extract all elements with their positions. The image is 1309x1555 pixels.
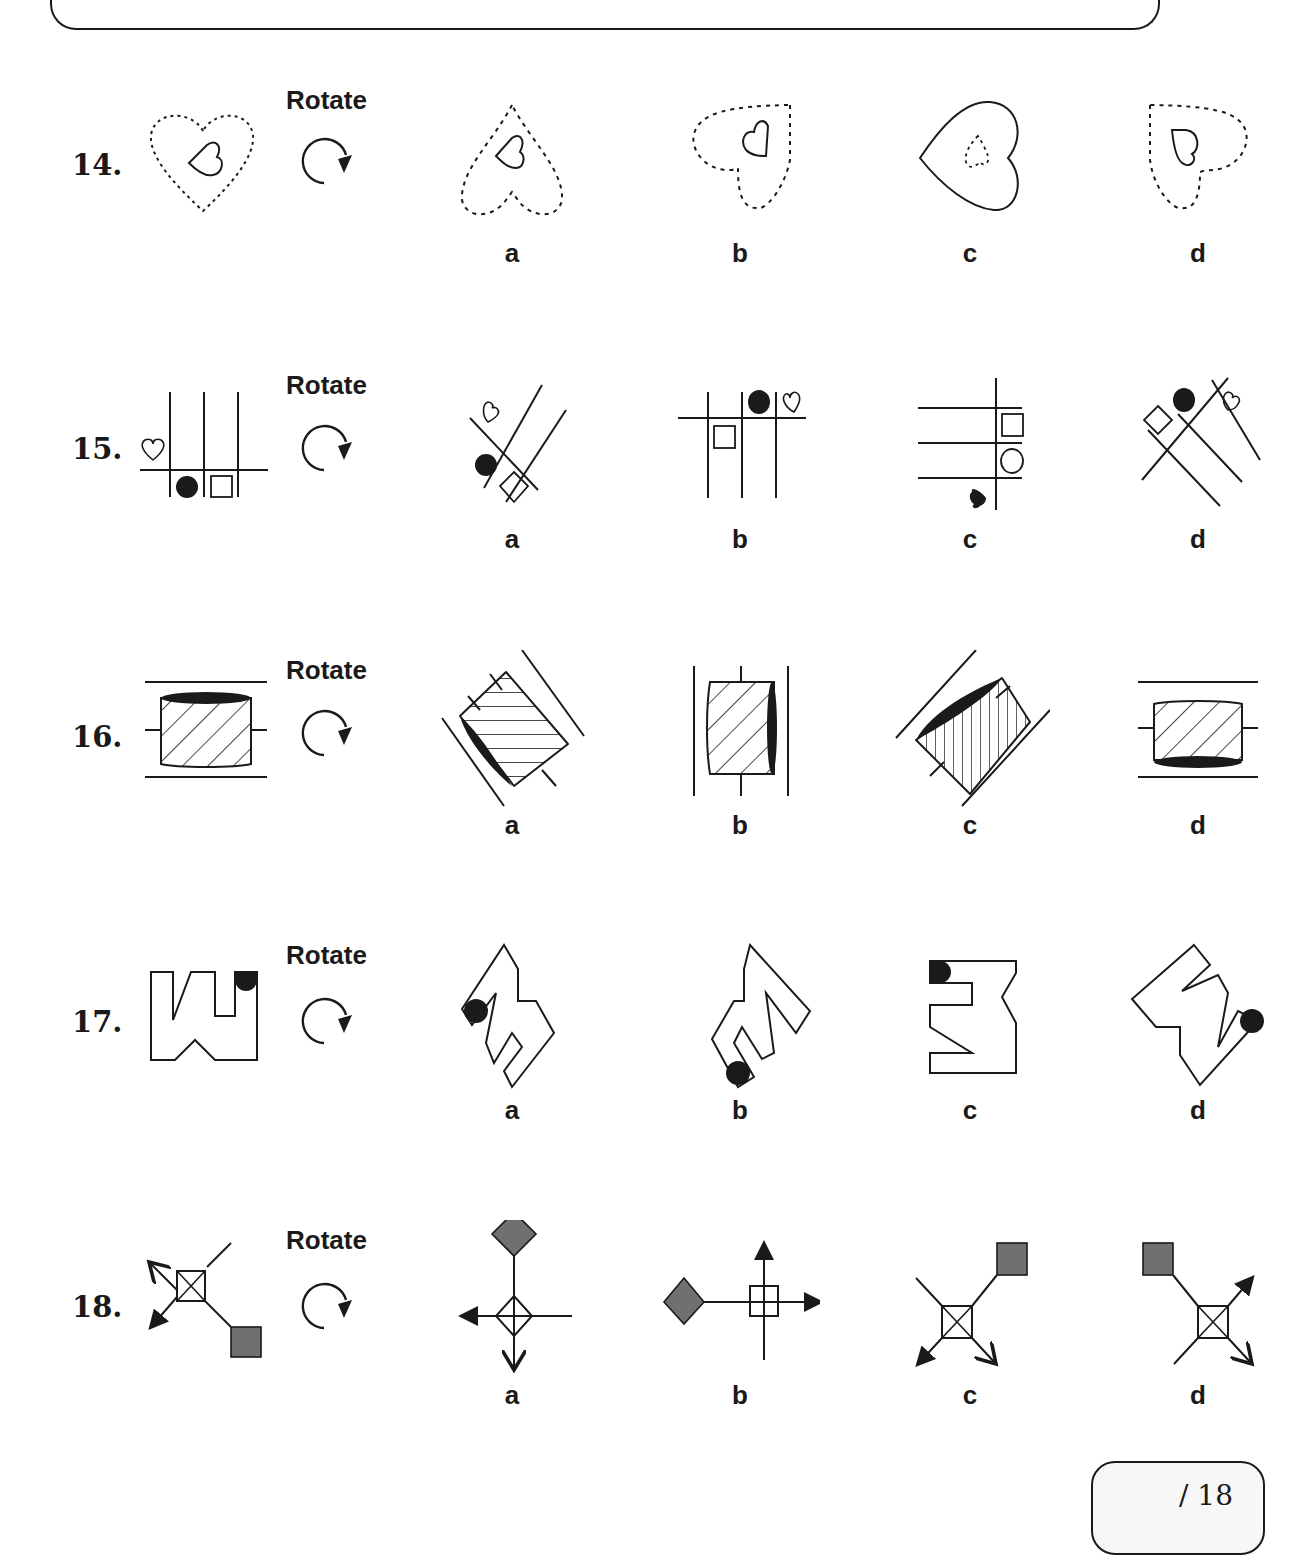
option-figure-icon xyxy=(660,650,820,810)
option-label: b xyxy=(660,1095,820,1126)
option-b[interactable]: b xyxy=(660,370,820,570)
option-label: a xyxy=(432,810,592,841)
option-figure-icon xyxy=(1118,1220,1278,1380)
option-a[interactable]: a xyxy=(432,80,592,280)
option-c[interactable]: c xyxy=(890,650,1050,850)
option-c[interactable]: c xyxy=(890,80,1050,280)
question-14: 14. Rotate a b c d xyxy=(0,80,1309,280)
question-16: 16. Rotate a b xyxy=(0,650,1309,850)
option-label: b xyxy=(660,524,820,555)
clockwise-arrow-icon xyxy=(296,697,360,761)
question-18: 18. Rotate a b xyxy=(0,1220,1309,1420)
option-figure-icon xyxy=(660,370,820,520)
option-d[interactable]: d xyxy=(1118,935,1278,1135)
question-15: 15. Rotate a xyxy=(0,370,1309,570)
option-figure-icon xyxy=(1118,370,1278,520)
option-label: d xyxy=(1118,238,1278,269)
option-d[interactable]: d xyxy=(1118,1220,1278,1420)
option-label: d xyxy=(1118,524,1278,555)
rotate-label: Rotate xyxy=(286,85,367,116)
option-label: c xyxy=(890,524,1050,555)
clockwise-arrow-icon xyxy=(296,412,360,476)
question-number: 16. xyxy=(72,720,122,754)
clockwise-arrow-icon xyxy=(296,125,360,189)
clockwise-arrow-icon xyxy=(296,1270,360,1334)
question-figure-cylinder-icon xyxy=(135,660,275,800)
option-a[interactable]: a xyxy=(432,935,592,1135)
option-label: c xyxy=(890,238,1050,269)
option-figure-icon xyxy=(660,1220,820,1380)
question-number: 18. xyxy=(72,1290,122,1324)
option-figure-icon xyxy=(432,935,592,1095)
option-label: d xyxy=(1118,810,1278,841)
question-figure-crossed-square-icon xyxy=(135,1235,275,1385)
option-figure-icon xyxy=(432,1220,592,1380)
question-figure-notched-shape-icon xyxy=(135,960,275,1100)
option-c[interactable]: c xyxy=(890,370,1050,570)
option-figure-icon xyxy=(1118,80,1278,230)
option-b[interactable]: b xyxy=(660,1220,820,1420)
question-number: 17. xyxy=(72,1005,122,1039)
option-figure-icon xyxy=(1118,650,1278,810)
option-figure-icon xyxy=(890,80,1050,230)
rotate-label: Rotate xyxy=(286,1225,367,1256)
rotate-label: Rotate xyxy=(286,655,367,686)
option-d[interactable]: d xyxy=(1118,80,1278,280)
option-d[interactable]: d xyxy=(1118,650,1278,850)
option-figure-icon xyxy=(432,650,592,810)
option-a[interactable]: a xyxy=(432,1220,592,1420)
option-figure-icon xyxy=(432,370,592,520)
rotate-label: Rotate xyxy=(286,940,367,971)
option-d[interactable]: d xyxy=(1118,370,1278,570)
option-figure-icon xyxy=(432,80,592,230)
option-figure-icon xyxy=(890,650,1050,810)
clockwise-arrow-icon xyxy=(296,985,360,1049)
option-a[interactable]: a xyxy=(432,370,592,570)
score-box: / 18 xyxy=(1091,1461,1265,1555)
option-label: b xyxy=(660,810,820,841)
option-label: b xyxy=(660,238,820,269)
option-label: a xyxy=(432,524,592,555)
option-figure-icon xyxy=(660,935,820,1095)
option-figure-icon xyxy=(890,1220,1050,1380)
question-number: 15. xyxy=(72,432,122,466)
option-figure-icon xyxy=(1118,935,1278,1095)
option-label: c xyxy=(890,1095,1050,1126)
option-label: a xyxy=(432,238,592,269)
option-label: c xyxy=(890,1380,1050,1411)
instruction-banner xyxy=(50,0,1160,30)
option-label: d xyxy=(1118,1380,1278,1411)
option-b[interactable]: b xyxy=(660,935,820,1135)
option-c[interactable]: c xyxy=(890,1220,1050,1420)
question-figure-heart-icon xyxy=(135,95,275,225)
option-label: a xyxy=(432,1095,592,1126)
option-c[interactable]: c xyxy=(890,935,1050,1135)
question-number: 14. xyxy=(72,148,122,182)
option-label: c xyxy=(890,810,1050,841)
option-label: b xyxy=(660,1380,820,1411)
option-label: d xyxy=(1118,1095,1278,1126)
option-figure-icon xyxy=(890,935,1050,1095)
option-figure-icon xyxy=(890,370,1050,520)
option-b[interactable]: b xyxy=(660,650,820,850)
option-b[interactable]: b xyxy=(660,80,820,280)
rotate-label: Rotate xyxy=(286,370,367,401)
question-17: 17. Rotate a b c d xyxy=(0,935,1309,1135)
option-a[interactable]: a xyxy=(432,650,592,850)
score-total: / 18 xyxy=(1179,1479,1233,1512)
question-figure-grid-icon xyxy=(135,380,275,520)
option-label: a xyxy=(432,1380,592,1411)
option-figure-icon xyxy=(660,80,820,230)
